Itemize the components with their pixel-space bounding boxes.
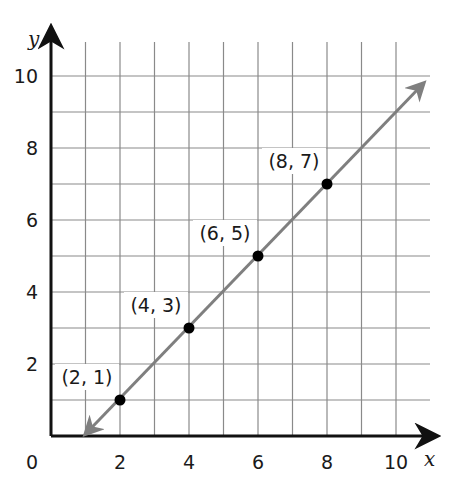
y-tick-label: 10 [14,65,38,87]
x-tick-label: 10 [384,451,408,473]
data-point [115,395,126,406]
point-label: (2, 1) [61,366,112,388]
x-tick-label: 4 [183,451,195,473]
data-points: (2, 1)(4, 3)(6, 5)(8, 7) [55,148,333,406]
x-axis-label: x [424,447,435,471]
y-tick-label: 8 [26,137,38,159]
coordinate-plane: 246810246810 y x 0 (2, 1)(4, 3)(6, 5)(8,… [0,0,453,490]
y-tick-label: 2 [26,353,38,375]
tick-labels: 246810246810 [14,65,408,473]
point-label: (8, 7) [268,150,319,172]
data-point [322,179,333,190]
data-point [184,323,195,334]
x-tick-label: 6 [252,451,264,473]
point-label: (4, 3) [130,294,181,316]
y-tick-label: 6 [26,209,38,231]
x-tick-label: 8 [321,451,333,473]
origin-label: 0 [26,451,38,473]
y-axis-label: y [27,27,40,51]
y-tick-label: 4 [26,281,38,303]
point-label: (6, 5) [199,222,250,244]
x-tick-label: 2 [114,451,126,473]
data-point [253,251,264,262]
